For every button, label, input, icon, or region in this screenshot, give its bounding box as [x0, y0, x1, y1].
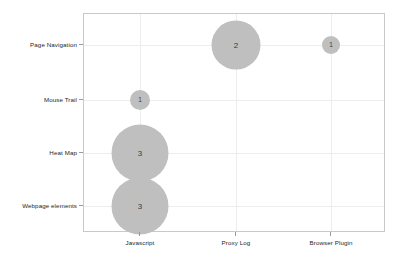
- x-tick-mark-browser-plugin: [330, 232, 331, 236]
- bubble-proxy-log-page-navigation[interactable]: 2: [212, 21, 261, 70]
- bubble-javascript-webpage-elements[interactable]: 3: [112, 178, 169, 235]
- x-tick-mark-proxy-log: [235, 232, 236, 236]
- y-tick-mark-page-navigation: [79, 44, 83, 45]
- bubble-browser-plugin-page-navigation[interactable]: 1: [322, 36, 340, 54]
- bubble-javascript-heat-map[interactable]: 3: [112, 125, 169, 182]
- bubble-javascript-mouse-trail[interactable]: 1: [130, 90, 150, 110]
- bubble-chart: 2 1 1 3 3 Page Navigation Mouse Trail He…: [0, 0, 402, 261]
- gridline-horizontal-mouse-trail: [84, 100, 384, 101]
- y-tick-mark-heat-map: [79, 152, 83, 153]
- bubble-value-label: 3: [138, 149, 142, 157]
- bubble-value-label: 2: [234, 41, 238, 49]
- y-tick-mark-mouse-trail: [79, 99, 83, 100]
- x-tick-label-browser-plugin: Browser Plugin: [309, 239, 352, 246]
- bubble-value-label: 1: [329, 42, 333, 49]
- x-tick-label-javascript: Javascript: [126, 239, 155, 246]
- y-tick-label-mouse-trail: Mouse Trail: [14, 96, 77, 103]
- bubble-value-label: 3: [138, 202, 142, 210]
- x-tick-mark-javascript: [139, 232, 140, 236]
- plot-area: 2 1 1 3 3: [83, 13, 385, 232]
- y-tick-label-webpage-elements: Webpage elements: [14, 202, 77, 209]
- y-tick-label-heat-map: Heat Map: [14, 149, 77, 156]
- bubble-value-label: 1: [138, 97, 142, 104]
- x-tick-label-proxy-log: Proxy Log: [222, 239, 251, 246]
- y-tick-mark-webpage-elements: [79, 205, 83, 206]
- y-tick-label-page-navigation: Page Navigation: [14, 41, 77, 48]
